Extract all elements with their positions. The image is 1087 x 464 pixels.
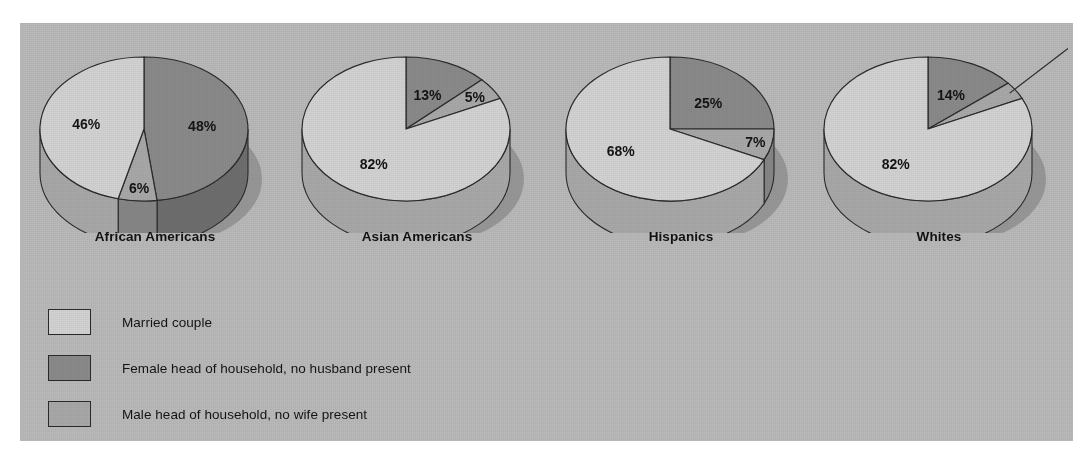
legend-item-female-head: Female head of household, no husband pre… (48, 345, 748, 391)
pie-category-label: Asian Americans (288, 229, 546, 244)
legend-label-female-head: Female head of household, no husband pre… (122, 361, 411, 376)
slice-value-label: 25% (694, 95, 723, 111)
pie-chart-asian-americans: 13%5%82% Asian Americans (288, 33, 546, 273)
pie-chart-african-americans: 48%6%46% African Americans (26, 33, 284, 273)
legend-item-male-head: Male head of household, no wife present (48, 391, 748, 437)
legend-swatch-female-head (48, 355, 91, 381)
slice-value-label: 13% (413, 87, 442, 103)
pie-chart-hispanics: 25%7%68% Hispanics (552, 33, 810, 273)
slice-value-label: 68% (607, 143, 636, 159)
legend-swatch-married-couple (48, 309, 91, 335)
slice-value-label: 48% (188, 118, 217, 134)
slice-value-label: 5% (465, 89, 486, 105)
slice-value-label: 7% (745, 134, 766, 150)
pie-chart-whites: 14%4%82% Whites (810, 33, 1068, 273)
pie-category-label: Whites (810, 229, 1068, 244)
legend-label-male-head: Male head of household, no wife present (122, 407, 367, 422)
legend-swatch-male-head (48, 401, 91, 427)
legend-label-married-couple: Married couple (122, 315, 212, 330)
pie-canvas: 48%6%46% (26, 33, 284, 237)
slice-value-label: 6% (129, 180, 150, 196)
slice-value-label: 14% (937, 87, 966, 103)
legend-item-married-couple: Married couple (48, 299, 748, 345)
legend: Married couple Female head of household,… (48, 299, 748, 437)
slice-value-label: 46% (72, 116, 101, 132)
pie-charts-row: 48%6%46% African Americans 13%5%82% Asia… (20, 23, 1073, 273)
figure-panel: 48%6%46% African Americans 13%5%82% Asia… (20, 23, 1073, 441)
pie-category-label: Hispanics (552, 229, 810, 244)
pie-canvas: 14%4%82% (810, 33, 1068, 237)
pie-canvas: 25%7%68% (552, 33, 810, 237)
pie-category-label: African Americans (26, 229, 284, 244)
slice-value-label: 82% (882, 156, 911, 172)
slice-value-label: 82% (360, 156, 389, 172)
pie-canvas: 13%5%82% (288, 33, 546, 237)
